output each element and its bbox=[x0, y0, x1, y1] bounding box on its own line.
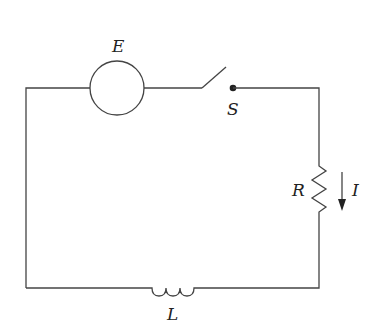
source-label: E bbox=[111, 36, 125, 56]
inductor-label: L bbox=[166, 304, 178, 324]
current-arrowhead-icon bbox=[338, 199, 346, 211]
resistor-icon bbox=[312, 163, 326, 215]
switch-lever-icon bbox=[202, 67, 226, 88]
current-label: I bbox=[351, 180, 359, 200]
wire-resistor-inductor bbox=[196, 215, 319, 288]
source-e-icon bbox=[90, 61, 144, 115]
circuit-diagram: E S R I L bbox=[0, 0, 383, 336]
wire-switch-resistor bbox=[233, 88, 319, 163]
resistor-label: R bbox=[291, 180, 305, 200]
wire-left-top bbox=[26, 88, 90, 288]
switch-label: S bbox=[227, 99, 239, 119]
inductor-icon bbox=[150, 288, 196, 296]
